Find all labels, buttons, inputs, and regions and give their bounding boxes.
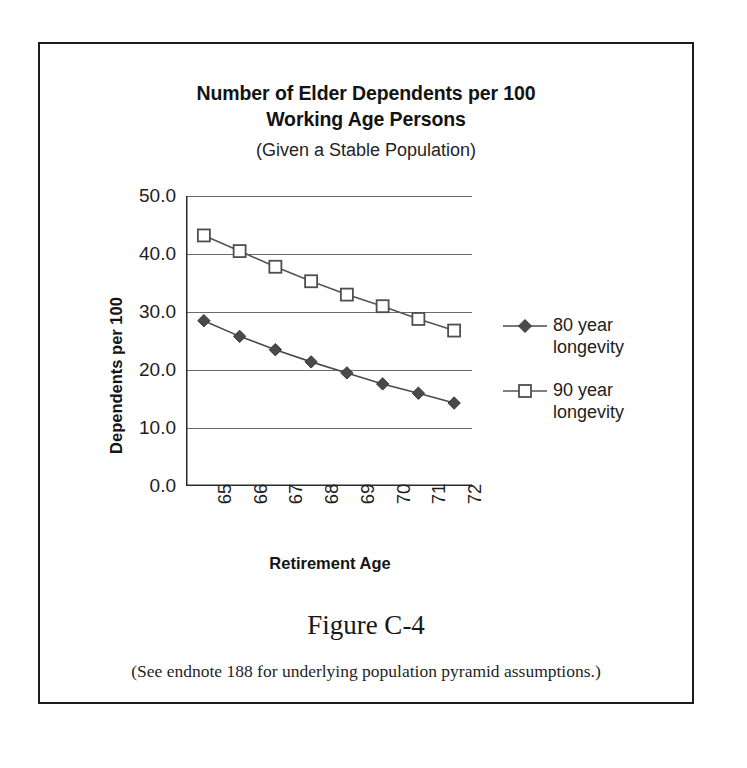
data-point-marker bbox=[234, 245, 246, 257]
data-point-marker bbox=[376, 378, 388, 390]
x-tick-label: 69 bbox=[357, 484, 379, 505]
chart-title-line-1: Number of Elder Dependents per 100Workin… bbox=[40, 80, 692, 132]
x-tick-label: 72 bbox=[464, 484, 486, 505]
chart-title-block: Number of Elder Dependents per 100Workin… bbox=[40, 80, 692, 164]
x-tick-label: 67 bbox=[286, 484, 308, 505]
x-tick-label: 66 bbox=[250, 484, 272, 505]
series-2 bbox=[198, 229, 460, 336]
chart-title-text-2: Working Age Persons bbox=[40, 106, 692, 132]
x-tick-label: 68 bbox=[321, 484, 343, 505]
legend-label-line-2: longevity bbox=[553, 336, 624, 358]
data-point-marker bbox=[305, 356, 317, 368]
y-tick-label: 30.0 bbox=[102, 301, 176, 323]
x-tick-label: 71 bbox=[429, 484, 451, 505]
series-1 bbox=[198, 315, 461, 410]
legend-label: 90 yearlongevity bbox=[553, 379, 624, 423]
y-tick-label: 40.0 bbox=[102, 243, 176, 265]
y-axis-tick-labels: 0.010.020.030.040.050.0 bbox=[102, 196, 176, 486]
legend-label-line-1: 90 year bbox=[553, 379, 624, 401]
data-point-marker bbox=[448, 397, 460, 409]
data-point-marker bbox=[341, 289, 353, 301]
data-point-marker bbox=[233, 330, 245, 342]
y-tick-label: 20.0 bbox=[102, 359, 176, 381]
data-point-marker bbox=[269, 261, 281, 273]
figure-frame: Number of Elder Dependents per 100Workin… bbox=[38, 42, 694, 704]
y-tick-label: 50.0 bbox=[102, 185, 176, 207]
y-tick-label: 10.0 bbox=[102, 417, 176, 439]
axes bbox=[186, 196, 472, 486]
data-point-marker bbox=[341, 367, 353, 379]
x-axis-title: Retirement Age bbox=[150, 554, 510, 573]
plot-svg bbox=[186, 196, 472, 486]
plot-area bbox=[186, 196, 472, 486]
legend-label-line-2: longevity bbox=[553, 401, 624, 423]
data-point-marker bbox=[198, 229, 210, 241]
figure-caption: Figure C-4 bbox=[40, 610, 692, 641]
legend-entry[interactable]: 90 yearlongevity bbox=[502, 379, 688, 423]
gridlines bbox=[186, 197, 472, 487]
data-point-marker bbox=[412, 313, 424, 325]
data-point-marker bbox=[305, 275, 317, 287]
x-tick-label: 70 bbox=[393, 484, 415, 505]
legend-entry[interactable]: 80 yearlongevity bbox=[502, 314, 688, 358]
open-square-marker-icon bbox=[502, 380, 548, 402]
chart-subtitle: (Given a Stable Population) bbox=[40, 136, 692, 164]
figure-note: (See endnote 188 for underlying populati… bbox=[40, 661, 692, 682]
filled-diamond-marker-icon bbox=[502, 315, 548, 337]
data-point-marker bbox=[377, 300, 389, 312]
legend-label-line-1: 80 year bbox=[553, 314, 624, 336]
data-point-marker bbox=[448, 325, 460, 337]
chart-title-text-1: Number of Elder Dependents per 100 bbox=[40, 80, 692, 106]
data-point-marker bbox=[198, 315, 210, 327]
data-point-marker bbox=[412, 387, 424, 399]
chart-legend: 80 yearlongevity90 yearlongevity bbox=[502, 314, 688, 444]
chart-area: Dependents per 100 0.010.020.030.040.050… bbox=[40, 196, 696, 596]
x-axis-tick-labels: 6566676869707172 bbox=[186, 492, 472, 550]
x-tick-label: 65 bbox=[214, 484, 236, 505]
y-tick-label: 0.0 bbox=[102, 475, 176, 497]
data-point-marker bbox=[269, 344, 281, 356]
legend-label: 80 yearlongevity bbox=[553, 314, 624, 358]
